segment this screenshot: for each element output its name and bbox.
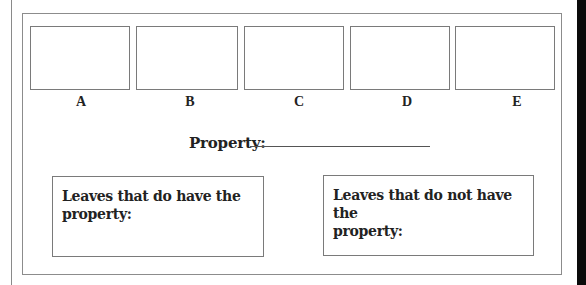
leaves-with-property-heading: Leaves that do have the property:	[62, 187, 241, 223]
heading-line-2: property:	[62, 205, 241, 223]
leaf-label-c: C	[294, 94, 304, 110]
leaf-label-a: A	[76, 94, 86, 110]
leaf-box-d	[350, 26, 450, 90]
leaf-box-c	[244, 26, 344, 90]
property-blank-line[interactable]	[250, 146, 430, 147]
leaves-without-property-box: Leaves that do not have the property:	[323, 175, 534, 256]
leaves-without-property-heading: Leaves that do not have the property:	[333, 186, 533, 240]
property-label: Property:	[189, 134, 266, 152]
leaf-label-e: E	[512, 94, 521, 110]
right-edge-bar	[577, 0, 586, 285]
leaf-box-a	[30, 26, 130, 90]
leaf-box-e	[455, 26, 555, 90]
heading-line-1: Leaves that do have the	[62, 187, 241, 205]
heading-line-2: property:	[333, 222, 533, 240]
leaves-with-property-box: Leaves that do have the property:	[52, 176, 264, 257]
left-margin-rule	[11, 0, 12, 285]
leaf-label-b: B	[185, 94, 194, 110]
heading-line-1: Leaves that do not have the	[333, 186, 533, 222]
leaf-label-d: D	[402, 94, 412, 110]
leaf-box-b	[136, 26, 238, 90]
